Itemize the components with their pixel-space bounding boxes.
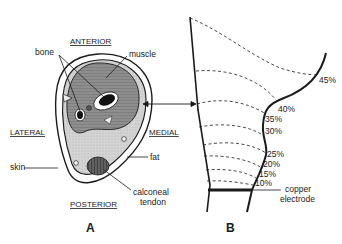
label-muscle: muscle [129, 49, 156, 59]
isopotential-lines [190, 18, 318, 185]
diagram-canvas: bone muscle skin fat calconeal tendon AN… [0, 0, 342, 244]
percent-45: 45% [319, 75, 336, 85]
label-electrode-line2: electrode [280, 194, 315, 204]
label-electrode-line1: copper [285, 184, 311, 194]
calcaneal-tendon [87, 157, 109, 175]
label-posterior: POSTERIOR [70, 200, 117, 209]
label-medial: MEDIAL [149, 128, 179, 137]
posterior-edge [190, 17, 210, 212]
label-bone: bone [35, 47, 54, 57]
percent-25: 25% [267, 149, 284, 159]
panel-b-letter: B [226, 221, 235, 235]
label-fat: fat [150, 152, 160, 162]
label-lateral: LATERAL [10, 128, 46, 137]
label-skin: skin [10, 162, 25, 172]
percent-10: 10% [255, 178, 272, 188]
panel-a-letter: A [86, 221, 95, 235]
panel-a-cross-section [56, 54, 152, 183]
label-anterior: ANTERIOR [70, 37, 112, 46]
percent-30: 30% [265, 126, 282, 136]
percent-35: 35% [265, 114, 282, 124]
percent-40: 40% [278, 104, 295, 114]
label-tendon-line1: calconeal [133, 187, 169, 197]
percent-20: 20% [263, 159, 280, 169]
label-tendon-line2: tendon [140, 197, 166, 207]
